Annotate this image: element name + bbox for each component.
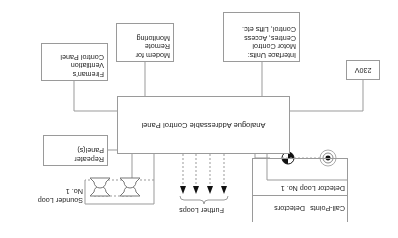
detector-loop-box: Detectors Call-Points Detector Loop No. … [252, 158, 348, 222]
repeater-line-1: Repeater [47, 154, 104, 163]
sounder-line-2: No. 1 [38, 187, 83, 196]
firemans-line-3: Control Panel [45, 52, 104, 61]
main-control-panel: Analogue Addressable Control Panel [117, 96, 290, 154]
power-supply-box: 230V [346, 60, 380, 80]
modem-line-2: Remote [120, 42, 170, 51]
main-panel-label: Analogue Addressable Control Panel [141, 121, 265, 130]
power-label: 230V [355, 66, 372, 75]
detector-loop-title: Detector Loop No. 1 [281, 183, 345, 192]
modem-line-3: Monitoring [120, 33, 170, 42]
firemans-panel-box: Fireman's Ventilation Control Panel [41, 43, 108, 81]
interface-line-4: Control, Lifts etc. [227, 25, 296, 34]
interface-units-box: Interface Units: Motor Control Centres, … [223, 12, 300, 62]
interface-line-3: Centres, Access [227, 33, 296, 42]
detector-loop-divider [253, 195, 347, 196]
modem-line-1: Modem for [120, 50, 170, 59]
further-loops-label: Further Loops [179, 205, 224, 214]
diagram-canvas: Analogue Addressable Control Panel 230V … [0, 0, 398, 238]
detectors-label: Detectors [274, 203, 305, 212]
firemans-line-2: Ventilation [45, 61, 104, 70]
repeater-panel-box: Repeater Panel(s) [43, 135, 108, 166]
firemans-line-1: Fireman's [45, 69, 104, 78]
repeater-line-2: Panel(s) [47, 146, 104, 155]
sounder-line-1: Sounder Loop [38, 195, 83, 204]
interface-line-2: Motor Control [227, 42, 296, 51]
sounder-loop-label: Sounder Loop No. 1 [38, 187, 83, 204]
modem-box: Modem for Remote Monitoring [116, 23, 174, 62]
interface-line-1: Interface Units: [227, 50, 296, 59]
call-points-label: Call-Points [310, 203, 345, 212]
